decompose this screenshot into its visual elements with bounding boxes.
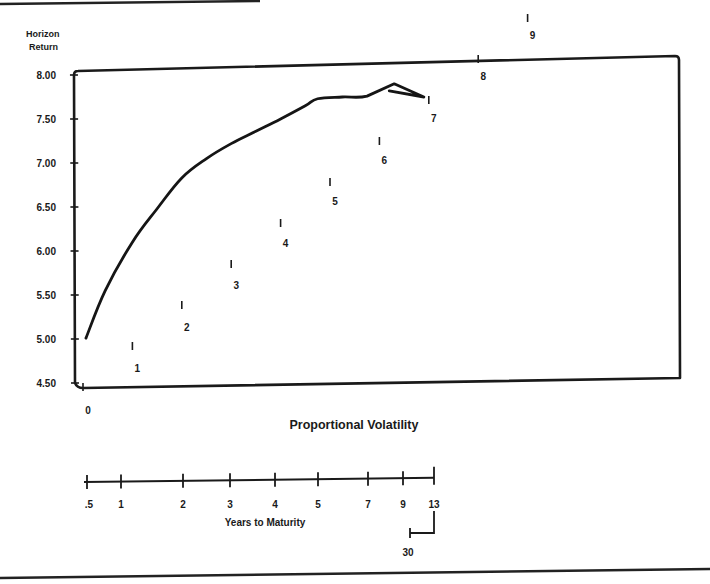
x-tick-label: 7 xyxy=(431,113,437,124)
x-axis-title: Proportional Volatility xyxy=(290,418,419,432)
svg-text:Return: Return xyxy=(29,42,58,52)
x-tick-label: 8 xyxy=(480,71,486,82)
maturity-axis-title: Years to Maturity xyxy=(225,517,306,528)
plot-frame xyxy=(74,56,680,388)
maturity-tick-label: 9 xyxy=(400,499,406,510)
x-tick-label: 9 xyxy=(530,30,536,41)
x-tick-label: 3 xyxy=(233,280,239,291)
svg-text:Horizon: Horizon xyxy=(26,29,60,39)
maturity-30-bracket xyxy=(410,511,434,538)
y-tick-label: 8.00 xyxy=(37,70,57,81)
maturity-tick-label: 2 xyxy=(180,499,186,510)
maturity-tick-label: 3 xyxy=(227,499,233,510)
maturity-tick-label: 7 xyxy=(365,499,371,510)
y-tick-label: 7.50 xyxy=(37,114,57,125)
y-tick-label: 6.00 xyxy=(37,246,57,257)
y-axis-title: Horizon Return xyxy=(26,29,60,52)
y-tick-label: 5.50 xyxy=(37,290,57,301)
y-axis: 8.007.507.006.506.005.505.004.50 xyxy=(37,70,79,389)
top-border xyxy=(0,1,260,4)
maturity-tick-label-30: 30 xyxy=(402,547,414,558)
maturity-tick-label: 4 xyxy=(272,499,278,510)
maturity-axis-line xyxy=(84,478,434,482)
y-tick-label: 5.00 xyxy=(37,334,57,345)
x-tick-label: 0 xyxy=(85,405,91,416)
y-tick-label: 6.50 xyxy=(37,202,57,213)
x-tick-label: 6 xyxy=(382,155,388,166)
maturity-tick-label: 5 xyxy=(315,499,321,510)
chart: Horizon Return 8.007.507.006.506.005.505… xyxy=(0,0,710,584)
data-line xyxy=(86,84,424,338)
x-tick-label: 4 xyxy=(283,238,289,249)
x-tick-label: 2 xyxy=(184,322,190,333)
y-tick-label: 7.00 xyxy=(37,158,57,169)
x-tick-label: 1 xyxy=(135,363,141,374)
x-tick-label: 5 xyxy=(332,196,338,207)
maturity-tick-label: .5 xyxy=(85,499,94,510)
maturity-scale: .512345791330 xyxy=(84,467,440,558)
maturity-tick-label: 13 xyxy=(428,499,440,510)
maturity-tick-label: 1 xyxy=(118,499,124,510)
y-tick-label: 4.50 xyxy=(37,378,57,389)
bottom-border xyxy=(0,569,710,578)
